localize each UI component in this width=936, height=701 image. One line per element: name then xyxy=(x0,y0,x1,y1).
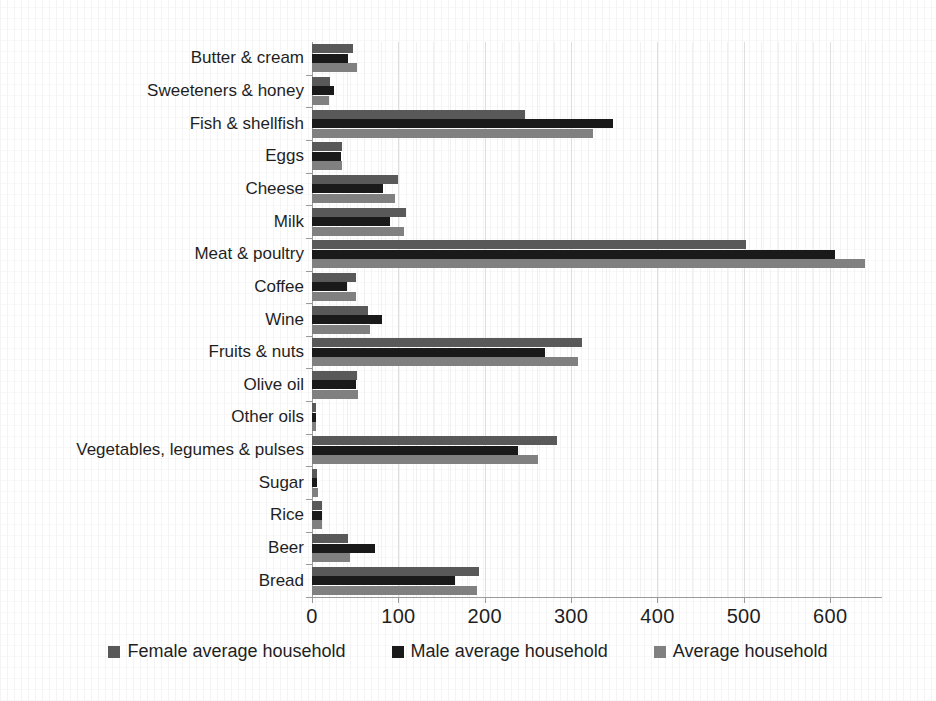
category-label: Other oils xyxy=(12,407,312,427)
bar xyxy=(312,54,348,63)
y-axis-tick xyxy=(306,205,312,206)
y-axis-tick xyxy=(306,466,312,467)
gridline xyxy=(675,42,676,597)
bar xyxy=(312,586,477,595)
bar xyxy=(312,380,356,389)
gridline xyxy=(796,42,797,597)
legend-label: Male average household xyxy=(411,641,608,662)
legend-item[interactable]: Female average household xyxy=(108,641,345,662)
bar xyxy=(312,44,353,53)
bar xyxy=(312,455,538,464)
bar xyxy=(312,77,330,86)
bar xyxy=(312,217,390,226)
category-label: Meat & poultry xyxy=(12,244,312,264)
y-axis-tick xyxy=(306,107,312,108)
gridline xyxy=(830,42,831,597)
y-axis-tick xyxy=(306,564,312,565)
x-axis-tick xyxy=(312,597,313,603)
x-axis-tick xyxy=(744,597,745,603)
category-label: Wine xyxy=(12,310,312,330)
category-label: Fruits & nuts xyxy=(12,342,312,362)
y-axis-tick xyxy=(306,271,312,272)
category-label: Rice xyxy=(12,505,312,525)
category-label: Beer xyxy=(12,538,312,558)
bar xyxy=(312,436,557,445)
bar xyxy=(312,348,545,357)
bar xyxy=(312,520,322,529)
y-axis-tick xyxy=(306,368,312,369)
bar xyxy=(312,338,582,347)
bar xyxy=(312,96,329,105)
bar xyxy=(312,403,316,412)
bar xyxy=(312,488,318,497)
bar xyxy=(312,282,347,291)
y-axis-tick xyxy=(306,75,312,76)
gridline xyxy=(709,42,710,597)
gridline xyxy=(847,42,848,597)
y-axis-tick xyxy=(306,303,312,304)
bar xyxy=(312,175,398,184)
y-axis-tick xyxy=(306,140,312,141)
category-label: Bread xyxy=(12,571,312,591)
bar xyxy=(312,292,356,301)
bar xyxy=(312,273,356,282)
bar xyxy=(312,534,348,543)
bar xyxy=(312,422,316,431)
bar xyxy=(312,119,613,128)
category-label: Fish & shellfish xyxy=(12,114,312,134)
category-label: Coffee xyxy=(12,277,312,297)
gridline xyxy=(640,42,641,597)
category-label: Cheese xyxy=(12,179,312,199)
bar xyxy=(312,129,593,138)
category-label: Milk xyxy=(12,212,312,232)
grouped-bar-chart: Butter & creamSweeteners & honeyFish & s… xyxy=(0,0,936,701)
bar xyxy=(312,544,375,553)
y-axis-tick xyxy=(306,499,312,500)
category-label: Olive oil xyxy=(12,375,312,395)
y-axis-tick xyxy=(306,532,312,533)
y-axis-tick xyxy=(306,434,312,435)
category-label: Sugar xyxy=(12,473,312,493)
gridline xyxy=(882,42,883,597)
legend-swatch-icon xyxy=(108,646,120,658)
bar xyxy=(312,142,342,151)
gridline xyxy=(727,42,728,597)
bar xyxy=(312,553,350,562)
legend-item[interactable]: Average household xyxy=(654,641,828,662)
bar xyxy=(312,413,316,422)
gridline xyxy=(623,42,624,597)
gridline xyxy=(761,42,762,597)
bar xyxy=(312,390,358,399)
chart-legend: Female average householdMale average hou… xyxy=(0,641,936,662)
x-axis-tick xyxy=(398,597,399,603)
bar xyxy=(312,446,518,455)
bar xyxy=(312,110,525,119)
y-axis-tick xyxy=(306,336,312,337)
bar xyxy=(312,315,382,324)
x-axis-tick-label: 500 xyxy=(727,605,761,628)
bar xyxy=(312,208,406,217)
gridline xyxy=(778,42,779,597)
y-axis-tick xyxy=(306,173,312,174)
bar xyxy=(312,306,368,315)
bar xyxy=(312,576,455,585)
category-label: Vegetables, legumes & pulses xyxy=(12,440,312,460)
category-label: Butter & cream xyxy=(12,48,312,68)
bar xyxy=(312,371,357,380)
x-axis-tick-label: 100 xyxy=(381,605,415,628)
x-axis-tick xyxy=(571,597,572,603)
legend-item[interactable]: Male average household xyxy=(392,641,608,662)
bar xyxy=(312,240,746,249)
bar xyxy=(312,478,317,487)
bar xyxy=(312,357,578,366)
y-axis-tick xyxy=(306,238,312,239)
bar xyxy=(312,152,341,161)
x-axis-tick-label: 400 xyxy=(640,605,674,628)
bar xyxy=(312,567,479,576)
x-axis-tick xyxy=(830,597,831,603)
bar xyxy=(312,259,865,268)
y-axis-tick xyxy=(306,401,312,402)
bar xyxy=(312,250,835,259)
x-axis-tick-label: 200 xyxy=(468,605,502,628)
x-axis-tick-label: 300 xyxy=(554,605,588,628)
